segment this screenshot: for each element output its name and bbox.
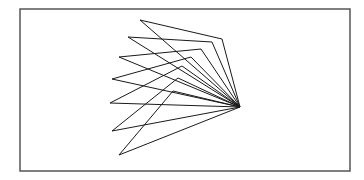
diagram-frame xyxy=(20,9,350,171)
diagram-canvas xyxy=(0,0,364,180)
